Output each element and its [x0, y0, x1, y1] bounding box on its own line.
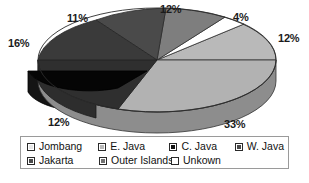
legend-label-c-java: C. Java	[181, 141, 217, 152]
legend-item-c-java[interactable]: C. Java	[169, 141, 234, 152]
legend-swatch-c-java	[169, 143, 177, 151]
data-label-c-java: 12%	[48, 117, 69, 128]
data-label-w-java: 16%	[8, 38, 29, 49]
legend-row-1: Jombang E. Java C. Java W. Java	[27, 140, 284, 153]
legend-item-e-java[interactable]: E. Java	[98, 141, 169, 152]
legend-label-jombang: Jombang	[39, 141, 82, 152]
legend-item-jakarta[interactable]: Jakarta	[27, 155, 99, 166]
legend-swatch-outer-islands	[99, 157, 107, 165]
legend-label-w-java: W. Java	[247, 141, 284, 152]
legend-swatch-jakarta	[27, 157, 35, 165]
pie-chart-svg	[0, 0, 309, 140]
legend-swatch-w-java	[235, 143, 243, 151]
data-label-jombang: 33%	[224, 119, 245, 130]
legend-label-jakarta: Jakarta	[39, 155, 73, 166]
legend-row-2: Jakarta Outer Islands Unkown	[27, 154, 284, 167]
pie-chart-figure: 12% 4% 12% 33% 12% 16% 11% Jombang E. Ja…	[0, 0, 309, 183]
legend-item-unkown[interactable]: Unkown	[171, 155, 221, 166]
legend-label-outer-islands: Outer Islands	[111, 155, 173, 166]
legend-swatch-e-java	[98, 143, 106, 151]
legend-swatch-jombang	[27, 143, 35, 151]
data-label-jakarta: 11%	[67, 13, 88, 24]
legend-item-jombang[interactable]: Jombang	[27, 141, 98, 152]
data-label-e-java: 12%	[278, 33, 299, 44]
legend-label-unkown: Unkown	[183, 155, 221, 166]
legend-item-w-java[interactable]: W. Java	[235, 141, 284, 152]
data-label-outer-islands: 12%	[160, 4, 181, 15]
legend-label-e-java: E. Java	[110, 141, 145, 152]
chart-legend: Jombang E. Java C. Java W. Java Jakarta	[20, 136, 289, 169]
data-label-unkown: 4%	[233, 12, 249, 23]
legend-swatch-unkown	[171, 157, 179, 165]
pie-chart-canvas: 12% 4% 12% 33% 12% 16% 11%	[0, 0, 309, 140]
legend-item-outer-islands[interactable]: Outer Islands	[99, 155, 171, 166]
